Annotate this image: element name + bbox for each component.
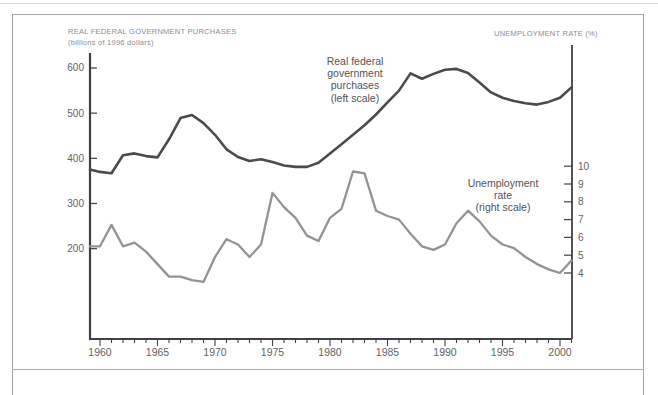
y-right-tick-label: 5 — [578, 250, 584, 261]
y-left-tick-label: 400 — [67, 153, 84, 164]
x-tick-label: 1975 — [261, 346, 285, 358]
purchases-series-label-line3: purchases — [300, 79, 410, 91]
purchases-series-label-line4: (left scale) — [300, 92, 410, 104]
unemployment-series-label-line2: rate — [450, 189, 556, 201]
y-right-tick-label: 6 — [578, 232, 584, 243]
x-tick-label: 1990 — [433, 346, 457, 358]
right-axis-title: UNEMPLOYMENT RATE (%) — [494, 29, 598, 40]
left-axis-title: REAL FEDERAL GOVERNMENT PURCHASES (billi… — [68, 27, 236, 48]
unemployment-series-label-line1: Unemployment — [450, 177, 556, 189]
y-right-tick-label: 4 — [578, 268, 584, 279]
x-tick-label: 2000 — [548, 346, 572, 358]
x-tick-label: 1965 — [146, 346, 170, 358]
purchases-series-label-line2: government — [300, 67, 410, 79]
x-tick-label: 1980 — [318, 346, 342, 358]
left-axis-title-line1: REAL FEDERAL GOVERNMENT PURCHASES — [68, 27, 236, 38]
y-right-tick-label: 9 — [578, 179, 584, 190]
y-right-tick-label: 8 — [578, 196, 584, 207]
y-right-tick-label: 7 — [578, 214, 584, 225]
x-tick-label: 1960 — [88, 346, 112, 358]
x-tick-label: 1970 — [203, 346, 227, 358]
y-left-tick-label: 600 — [67, 62, 84, 73]
y-right-tick-label: 10 — [578, 161, 590, 172]
purchases-series-label-line1: Real federal — [300, 55, 410, 67]
x-tick-label: 1985 — [376, 346, 400, 358]
left-axis-title-line2: (billions of 1996 dollars) — [68, 38, 236, 49]
y-left-tick-label: 300 — [67, 198, 84, 209]
purchases-series-label: Real federal government purchases (left … — [300, 55, 410, 104]
x-tick-label: 1995 — [491, 346, 515, 358]
unemployment-series-label: Unemployment rate (right scale) — [450, 177, 556, 214]
caption-divider — [12, 369, 643, 370]
unemployment-series-label-line3: (right scale) — [450, 201, 556, 213]
y-left-tick-label: 500 — [67, 108, 84, 119]
y-left-tick-label: 200 — [67, 243, 84, 254]
